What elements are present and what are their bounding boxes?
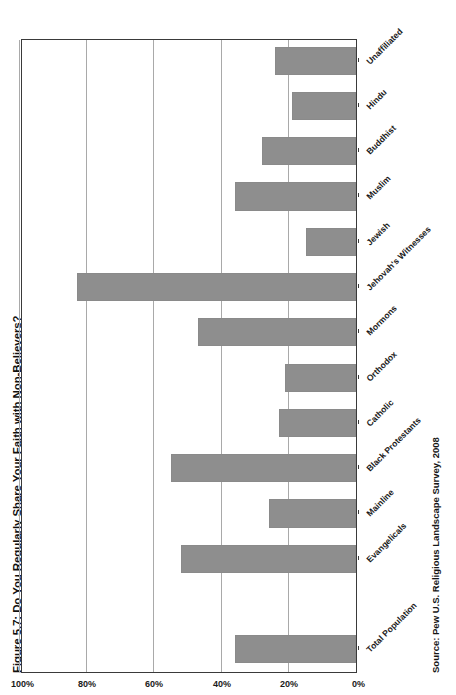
category-label: Hindu [364, 87, 388, 111]
tickmark [358, 194, 359, 198]
category-label: Catholic [364, 397, 395, 428]
category-label: Total Population [364, 601, 418, 655]
bar-slot [22, 318, 356, 346]
tickmark [358, 284, 359, 288]
bar[interactable] [292, 92, 356, 120]
tickmark [358, 329, 359, 333]
bar[interactable] [262, 137, 356, 165]
bar-slot [22, 545, 356, 573]
bar[interactable] [279, 409, 356, 437]
category-label: Mainline [364, 488, 395, 519]
bar[interactable] [306, 228, 356, 256]
bar[interactable] [285, 364, 356, 392]
tickmark [358, 58, 359, 62]
category-label: Jewish [364, 220, 391, 247]
bar[interactable] [181, 545, 356, 573]
bars-layer [22, 40, 356, 672]
plot-area [21, 39, 357, 673]
bar[interactable] [235, 635, 356, 663]
bar-slot [22, 499, 356, 527]
category-label: Mormons [364, 303, 398, 337]
gridline [19, 40, 20, 672]
bar[interactable] [198, 318, 356, 346]
tickmark [358, 465, 359, 469]
tickmark [358, 103, 359, 107]
tickmark [358, 646, 359, 650]
bar-slot [22, 364, 356, 392]
tickmark [358, 511, 359, 515]
tickmark [358, 420, 359, 424]
category-label: Evangelicals [364, 520, 408, 564]
category-label: Buddhist [364, 123, 397, 156]
value-tick-label: 100% [11, 679, 29, 689]
value-tick-label: 40% [213, 679, 231, 689]
bar-slot [22, 92, 356, 120]
category-label: Orthodox [364, 349, 398, 383]
bar-slot [22, 273, 356, 301]
bar[interactable] [275, 47, 356, 75]
source-note: Source: Pew U.S. Religious Landscape Sur… [424, 0, 446, 695]
value-tick-label: 20% [280, 679, 298, 689]
tickmark [358, 239, 359, 243]
value-tick-label: 60% [145, 679, 163, 689]
tickmark [358, 375, 359, 379]
bar-slot [22, 228, 356, 256]
tickmark [358, 148, 359, 152]
bar-slot [22, 635, 356, 663]
category-label: Unaffiliated [364, 26, 404, 66]
bar-slot [22, 454, 356, 482]
bar[interactable] [269, 499, 356, 527]
value-tick-label: 80% [78, 679, 96, 689]
value-tick-label: 0% [347, 679, 365, 689]
category-label: Muslim [364, 174, 392, 202]
bar[interactable] [77, 273, 356, 301]
bar-slot [22, 137, 356, 165]
bar-chart: 0%20%40%60%80%100% Total PopulationEvang… [14, 0, 374, 695]
bar-slot [22, 409, 356, 437]
tickmark [358, 556, 359, 560]
bar[interactable] [171, 454, 356, 482]
bar[interactable] [235, 182, 356, 210]
bar-slot [22, 47, 356, 75]
bar-slot [22, 182, 356, 210]
